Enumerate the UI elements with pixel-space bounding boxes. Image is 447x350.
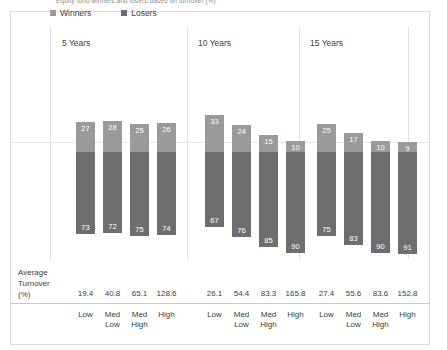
bar-value-winners: 10 [371,143,390,152]
bar-winners: 10 [286,141,305,152]
category-label: MedLow [227,310,256,330]
bar-winners: 17 [344,133,363,152]
bar-value-losers: 90 [286,242,305,251]
category-label-line: High [254,320,283,330]
bar-losers: 67 [205,152,224,227]
square-swatch-icon [121,10,127,16]
bar-value-winners: 25 [130,126,149,135]
avg-turnover-line3: (%) [18,289,50,300]
bar-winners: 10 [371,141,390,152]
avg-turnover-value: 128.6 [151,289,182,298]
category-label-line: Low [200,310,229,320]
category-label-line: High [393,310,422,320]
category-label-line: High [366,320,395,330]
bar-value-winners: 26 [157,125,176,134]
avg-turnover-label: Average Turnover (%) [18,267,50,300]
avg-turnover-value: 152.8 [392,289,423,298]
category-label-line: Low [312,310,341,320]
bar-winners: 33 [205,115,224,152]
bar-value-losers: 83 [344,234,363,243]
bar-winners: 28 [103,121,122,152]
category-label: High [393,310,422,320]
category-label-line: Med [125,310,154,320]
bar-value-losers: 72 [103,222,122,231]
legend-label-losers: Losers [131,8,157,18]
square-swatch-icon [50,10,56,16]
legend-item-losers: Losers [121,8,157,18]
bar-winners: 26 [157,123,176,152]
bar-losers: 75 [317,152,336,236]
category-label: High [152,310,181,320]
bar-losers: 73 [76,152,95,234]
bar-losers: 83 [344,152,363,245]
bar-value-winners: 28 [103,123,122,132]
category-label: Low [200,310,229,320]
bar-value-losers: 67 [205,216,224,225]
category-label: MedHigh [125,310,154,330]
bar-losers: 91 [398,152,417,254]
panel-title-10-years: 10 Years [198,38,231,48]
bar-value-winners: 27 [76,124,95,133]
chart-legend: Winners Losers [50,8,157,18]
category-label: High [281,310,310,320]
category-label: Low [312,310,341,320]
category-label-line: High [152,310,181,320]
bar-winners: 25 [317,124,336,152]
bar-value-winners: 15 [259,137,278,146]
category-label: MedLow [339,310,368,330]
category-label-line: Med [227,310,256,320]
panel-title-15-years: 15 Years [310,38,343,48]
bar-losers: 76 [232,152,251,237]
bar-value-losers: 75 [130,225,149,234]
category-label: Low [71,310,100,320]
category-label: MedLow [98,310,127,330]
bar-losers: 74 [157,152,176,235]
avg-turnover-line2: Turnover [18,278,50,289]
bar-value-losers: 75 [317,225,336,234]
category-label-line: High [125,320,154,330]
legend-label-winners: Winners [60,8,91,18]
bar-value-losers: 73 [76,223,95,232]
bar-value-winners: 25 [317,126,336,135]
bar-value-losers: 74 [157,224,176,233]
bar-value-winners: 17 [344,135,363,144]
panel-title-5-years: 5 Years [62,38,90,48]
category-label-line: High [281,310,310,320]
bar-losers: 75 [130,152,149,236]
bar-winners: 27 [76,122,95,152]
bar-value-winners: 10 [286,143,305,152]
bar-losers: 90 [371,152,390,253]
bar-losers: 72 [103,152,122,233]
bar-value-winners: 24 [232,127,251,136]
category-label-line: Med [254,310,283,320]
bar-value-losers: 91 [398,243,417,252]
bar-winners: 9 [398,142,417,152]
bar-value-losers: 76 [232,226,251,235]
category-label-line: Med [339,310,368,320]
category-label: MedHigh [254,310,283,330]
category-label: MedHigh [366,310,395,330]
bar-value-losers: 85 [259,236,278,245]
bar-winners: 15 [259,135,278,152]
category-label-line: Low [71,310,100,320]
bar-winners: 25 [130,124,149,152]
category-label-line: Low [227,320,256,330]
bar-value-losers: 90 [371,242,390,251]
bar-losers: 85 [259,152,278,247]
bar-winners: 24 [232,125,251,152]
category-label-line: Low [98,320,127,330]
category-label-line: Med [366,310,395,320]
panel-separator-1 [187,27,188,259]
legend-item-winners: Winners [50,8,91,18]
bar-value-winners: 33 [205,117,224,126]
category-label-line: Med [98,310,127,320]
avg-turnover-line1: Average [18,267,50,278]
axis-rule [10,303,430,304]
category-label-line: Low [339,320,368,330]
bar-losers: 90 [286,152,305,253]
chart-title: Equity fund winners and losers based on … [56,0,216,4]
avg-turnover-value: 165.8 [280,289,311,298]
